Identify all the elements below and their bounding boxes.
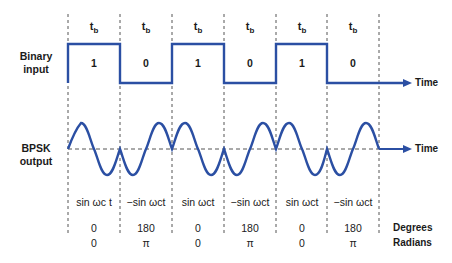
bit-value: 1 [172, 57, 224, 69]
phase-degrees: 180 [327, 222, 379, 234]
phase-degrees: 180 [120, 222, 172, 234]
phase-radians: π [224, 237, 276, 249]
bit-period-label: tb [172, 20, 224, 35]
bit-period-label: tb [327, 20, 379, 35]
bit-period-label: tb [120, 20, 172, 35]
output-expression: −sin ωct [120, 196, 172, 208]
phase-radians: 0 [68, 237, 120, 249]
bit-value: 1 [68, 57, 120, 69]
output-expression: −sin ωct [224, 196, 276, 208]
radians-label: Radians [393, 237, 432, 248]
bit-value: 1 [276, 57, 328, 69]
bpsk-output-label: BPSK output [12, 142, 60, 168]
time-label-binary: Time [415, 77, 438, 88]
degrees-label: Degrees [393, 222, 432, 233]
bit-value: 0 [327, 57, 379, 69]
phase-radians: 0 [276, 237, 328, 249]
output-expression: −sin ωct [327, 196, 379, 208]
phase-radians: π [120, 237, 172, 249]
output-expression: sin ωct [276, 196, 328, 208]
phase-degrees: 0 [276, 222, 328, 234]
bit-value: 0 [120, 57, 172, 69]
bit-period-label: tb [276, 20, 328, 35]
phase-degrees: 0 [172, 222, 224, 234]
time-arrow-icon [403, 145, 412, 153]
output-expression: sin ωct [172, 196, 224, 208]
binary-input-label: Binary input [14, 50, 58, 76]
phase-degrees: 0 [68, 222, 120, 234]
phase-radians: π [327, 237, 379, 249]
time-arrow-icon [403, 79, 412, 87]
bit-period-label: tb [224, 20, 276, 35]
output-expression: sin ωc t [68, 196, 120, 208]
time-label-bpsk: Time [415, 143, 438, 154]
bit-period-label: tb [68, 20, 120, 35]
phase-degrees: 180 [224, 222, 276, 234]
phase-radians: 0 [172, 237, 224, 249]
bit-value: 0 [224, 57, 276, 69]
